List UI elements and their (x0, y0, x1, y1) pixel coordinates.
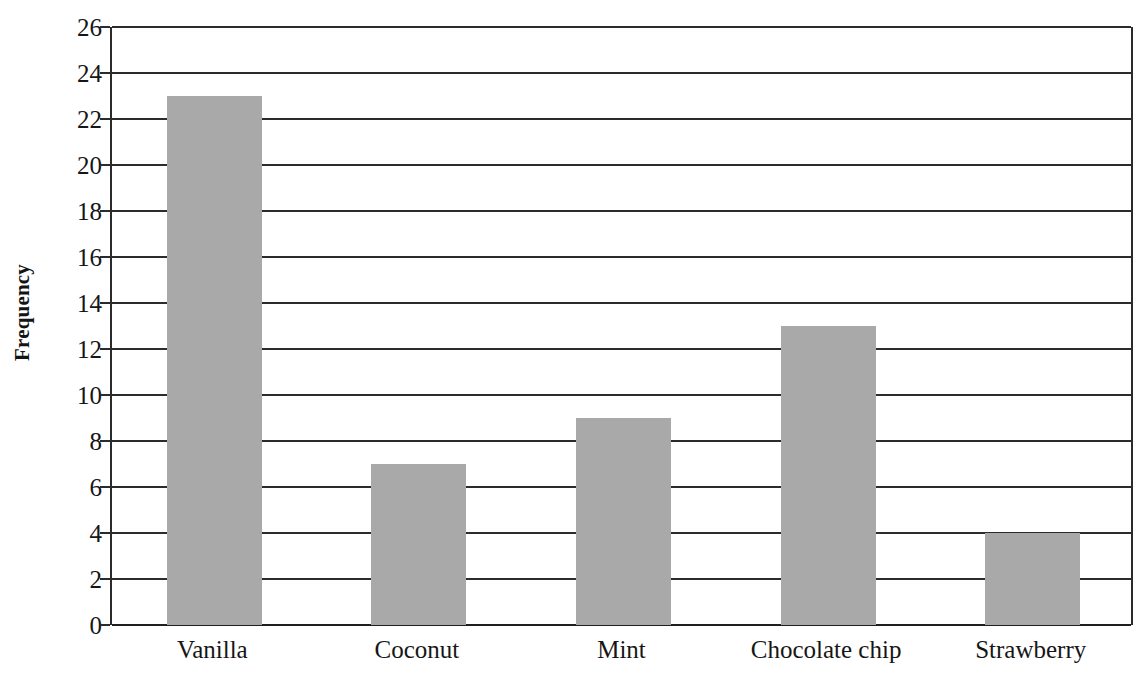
y-axis-tick-mark (100, 72, 110, 74)
x-axis-tick-label: Vanilla (177, 636, 248, 664)
y-axis-tick-mark (100, 440, 110, 442)
x-axis-tick-label-group: VanillaCoconutMintChocolate chipStrawber… (110, 636, 1133, 682)
y-axis-tick-label: 26 (46, 15, 102, 40)
y-axis-tick-mark (100, 486, 110, 488)
x-axis-tick-label: Strawberry (975, 636, 1086, 664)
y-axis-tick-label: 16 (46, 245, 102, 270)
y-axis-tick-label: 2 (46, 567, 102, 592)
y-axis-tick-label: 0 (46, 613, 102, 638)
y-axis-tick-label: 24 (46, 61, 102, 86)
y-axis-tick-label: 8 (46, 429, 102, 454)
y-axis-tick-label: 4 (46, 521, 102, 546)
x-axis-tick-label: Chocolate chip (751, 636, 902, 664)
y-axis-tick-label: 6 (46, 475, 102, 500)
y-axis-tick-label: 14 (46, 291, 102, 316)
y-axis-tick-label: 12 (46, 337, 102, 362)
x-axis-tick-label: Mint (597, 636, 646, 664)
y-axis-tick-mark (100, 210, 110, 212)
y-axis-tick-mark (100, 302, 110, 304)
y-axis-tick-mark (100, 348, 110, 350)
bar (985, 533, 1080, 625)
y-axis-title: Frequency (0, 0, 46, 625)
bar (167, 96, 262, 625)
bar (371, 464, 466, 625)
y-axis-tick-mark (100, 256, 110, 258)
y-axis-tick-mark (100, 532, 110, 534)
y-axis-title-text: Frequency (11, 264, 36, 361)
y-axis-tick-mark (100, 164, 110, 166)
y-axis-tick-mark (100, 578, 110, 580)
y-axis-tick-label: 22 (46, 107, 102, 132)
bar-group (112, 27, 1131, 625)
plot-area (110, 27, 1133, 625)
bar (576, 418, 671, 625)
y-axis-tick-mark (100, 118, 110, 120)
y-axis-tick-mark (100, 624, 110, 626)
y-axis-tick-label-group: 02468101214161820222426 (46, 0, 102, 692)
bar-chart-figure: Frequency 02468101214161820222426 Vanill… (0, 0, 1140, 692)
y-axis-tick-label: 18 (46, 199, 102, 224)
y-axis-tick-label: 10 (46, 383, 102, 408)
x-axis-tick-label: Coconut (375, 636, 460, 664)
y-axis-tick-mark (100, 26, 110, 28)
bar (781, 326, 876, 625)
y-axis-tick-mark (100, 394, 110, 396)
y-axis-tick-label: 20 (46, 153, 102, 178)
